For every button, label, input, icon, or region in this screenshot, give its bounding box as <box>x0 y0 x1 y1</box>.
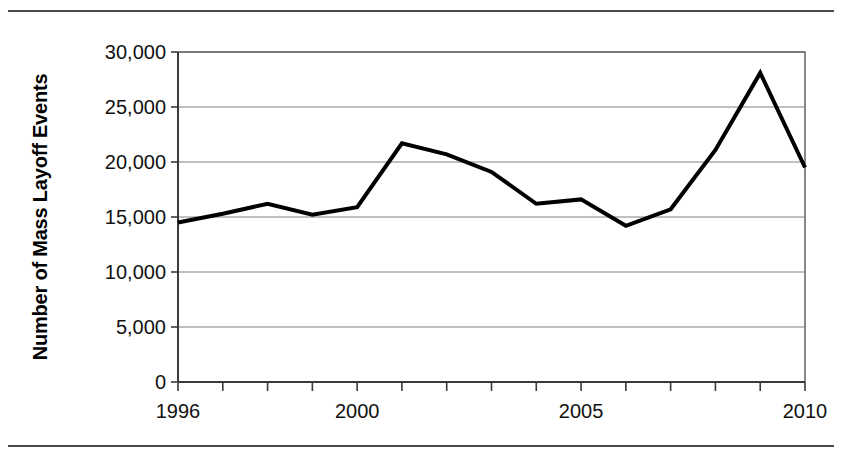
x-tick-label: 2010 <box>760 400 842 423</box>
y-tick-label: 20,000 <box>36 151 166 174</box>
figure-container: Number of Mass Layoff Events 05,00010,00… <box>0 0 842 460</box>
y-tick-label: 15,000 <box>36 206 166 229</box>
y-tickmarks-group <box>171 52 178 382</box>
x-tickmarks-group <box>178 382 805 391</box>
y-tick-label: 30,000 <box>36 41 166 64</box>
data-series-group <box>178 73 805 226</box>
x-tick-label: 1996 <box>133 400 223 423</box>
y-tick-label: 10,000 <box>36 261 166 284</box>
series-line-0 <box>178 73 805 226</box>
x-tick-label: 2000 <box>312 400 402 423</box>
gridlines-group <box>178 52 805 382</box>
y-tick-label: 0 <box>36 371 166 394</box>
y-tick-label: 5,000 <box>36 316 166 339</box>
line-chart: Number of Mass Layoff Events 05,00010,00… <box>0 0 842 460</box>
x-tick-label: 2005 <box>536 400 626 423</box>
y-tick-label: 25,000 <box>36 96 166 119</box>
